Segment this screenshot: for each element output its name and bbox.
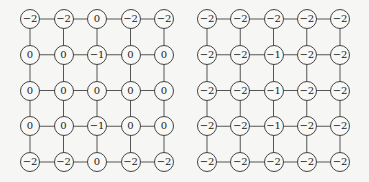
- grid-node: −2: [330, 9, 350, 29]
- grid-node: −1: [264, 116, 284, 136]
- grid-node: −2: [297, 9, 317, 29]
- grid-node: −2: [230, 81, 250, 101]
- grid-node: −2: [197, 45, 217, 65]
- grid-node: −1: [264, 45, 284, 65]
- grid-node: −2: [330, 45, 350, 65]
- grid-node: −2: [297, 152, 317, 172]
- grid-node: −2: [297, 81, 317, 101]
- grid-node: −2: [297, 45, 317, 65]
- grid-node: −1: [264, 81, 284, 101]
- grid-node: −2: [330, 152, 350, 172]
- grid-node: −2: [330, 81, 350, 101]
- grid-node: −2: [264, 152, 284, 172]
- grid-node: −2: [297, 116, 317, 136]
- grid-node: −2: [197, 152, 217, 172]
- grid-node: −2: [197, 81, 217, 101]
- grid-node: −2: [264, 9, 284, 29]
- grid-node: −2: [230, 45, 250, 65]
- grid-node: −2: [197, 9, 217, 29]
- right-grid: −2−2−2−2−2−2−2−1−2−2−2−2−1−2−2−2−2−1−2−2…: [0, 0, 369, 182]
